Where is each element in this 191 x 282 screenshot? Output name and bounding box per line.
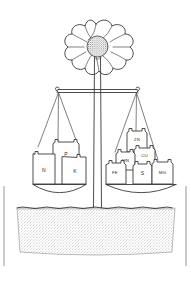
plant-stem	[94, 57, 102, 208]
weight-p-label: P	[64, 151, 68, 157]
soil-bed	[17, 207, 175, 255]
weight-n: N	[33, 152, 55, 185]
weight-k: K	[62, 155, 86, 185]
weight-fe-label: FE	[112, 170, 118, 175]
weight-cu-label: CU	[141, 153, 148, 158]
right-balance-pan: ZN CU MN FE S MG	[106, 87, 176, 193]
weight-k-label: K	[73, 168, 77, 174]
weight-s: S	[133, 162, 152, 185]
weight-zn-label: ZN	[134, 137, 140, 142]
weight-mg-label: MG	[159, 170, 167, 175]
illustration-canvas: P N K ZN CU	[0, 0, 191, 282]
balance-beam	[57, 90, 138, 93]
left-balance-pan: P N K	[33, 87, 86, 193]
weight-n-label: N	[42, 167, 46, 173]
right-pan-bowl	[106, 185, 176, 193]
flower-center-disc	[87, 36, 108, 57]
weight-fe: FE	[106, 161, 126, 185]
weight-mg: MG	[152, 160, 173, 185]
weight-s-label: S	[141, 170, 145, 176]
nutrient-balance-illustration: P N K ZN CU	[0, 0, 191, 282]
flower-head	[65, 20, 133, 74]
left-pan-bowl	[33, 185, 86, 193]
